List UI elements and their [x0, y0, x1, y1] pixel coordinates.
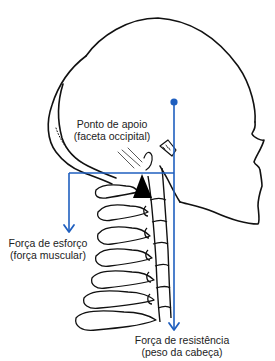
fulcrum-label-line2: (faceta occipital): [72, 130, 152, 142]
center-of-mass-dot: [170, 98, 177, 105]
resistance-label-line1: Força de resistência: [134, 334, 230, 346]
effort-label: Força de esforço (força muscular): [4, 237, 92, 261]
lever-diagram: Ponto de apoio (faceta occipital) Força …: [0, 0, 275, 361]
resistance-label-line2: (peso da cabeça): [134, 346, 230, 358]
effort-label-line2: (força muscular): [4, 249, 92, 261]
fulcrum-label-line1: Ponto de apoio: [72, 118, 152, 130]
effort-label-line1: Força de esforço: [4, 237, 92, 249]
fulcrum-label: Ponto de apoio (faceta occipital): [72, 118, 152, 142]
diagram-canvas: [0, 0, 275, 361]
resistance-label: Força de resistência (peso da cabeça): [134, 334, 230, 358]
